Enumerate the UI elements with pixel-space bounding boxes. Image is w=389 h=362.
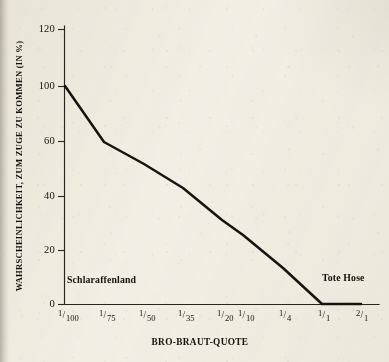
- x-tick-denominator: 10: [246, 313, 255, 323]
- y-tick-label: 120: [39, 23, 55, 34]
- x-tick-label: 1 / 10: [238, 308, 255, 323]
- x-tick-denominator: 75: [107, 313, 116, 323]
- x-tick-label: 1 / 75: [99, 308, 116, 323]
- x-tick-denominator: 20: [225, 313, 234, 323]
- x-tick-label: 1 / 35: [178, 308, 195, 323]
- x-tick-denominator: 100: [66, 313, 79, 323]
- x-tick-denominator: 1: [364, 313, 368, 323]
- x-tick-label: 1 / 50: [139, 308, 156, 323]
- x-tick-denominator: 1: [326, 313, 330, 323]
- x-tick-label: 2 / 1: [356, 308, 368, 323]
- y-tick-label: 0: [50, 298, 55, 309]
- x-tick-label: 1 / 4: [279, 308, 292, 323]
- y-tick-label: 20: [44, 244, 55, 255]
- x-tick-denominator: 35: [186, 313, 195, 323]
- series-line-wahrscheinlichkeit: [65, 86, 361, 304]
- y-tick-label: 100: [39, 80, 55, 91]
- x-tick-denominator: 4: [287, 313, 292, 323]
- chart-canvas: 120 100 60 40 20 0 1 / 100 1 / 75: [0, 0, 389, 362]
- y-tick-label: 60: [44, 135, 55, 146]
- x-tick-denominator: 50: [147, 313, 156, 323]
- annotation-schlaraffenland: Schlaraffenland: [67, 274, 137, 285]
- x-tick-label: 1 / 20: [217, 308, 234, 323]
- x-axis-ticks: 1 / 100 1 / 75 1 / 50 1 / 35 1 /: [58, 308, 368, 323]
- x-tick-label: 1 / 1: [318, 308, 330, 323]
- x-axis-title: BRO-BRAUT-QUOTE: [152, 337, 249, 347]
- annotation-tote-hose: Tote Hose: [322, 272, 365, 283]
- y-axis-title: WAHRSCHEINLICHKEIT, ZUM ZUGE ZU KOMMEN (…: [14, 41, 24, 292]
- y-axis-ticks: 120 100 60 40 20 0: [39, 23, 64, 309]
- chart-figure: 120 100 60 40 20 0 1 / 100 1 / 75: [0, 0, 389, 362]
- y-tick-label: 40: [44, 190, 55, 201]
- x-tick-label: 1 / 100: [58, 308, 79, 323]
